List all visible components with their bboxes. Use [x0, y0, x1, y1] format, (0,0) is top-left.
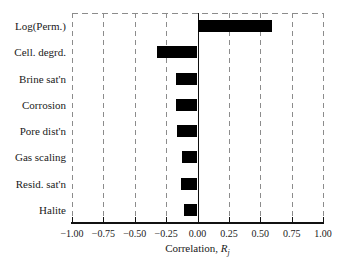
bar [182, 151, 197, 163]
zero-reference-line [198, 13, 199, 223]
gridline [103, 13, 104, 223]
gridline [166, 13, 167, 223]
gridline [323, 13, 324, 223]
x-axis-title-symbol: R [221, 242, 228, 254]
category-label: Halite [0, 197, 66, 223]
bar [157, 46, 197, 58]
category-label: Gas scaling [0, 144, 66, 170]
category-label: Corrosion [0, 92, 66, 118]
x-axis-title-text: Correlation, [165, 242, 221, 254]
x-axis-title: Correlation, Rj [72, 242, 323, 254]
gridline [72, 13, 73, 223]
category-label: Log(Perm.) [0, 13, 66, 39]
category-label: Cell. degrd. [0, 39, 66, 65]
x-axis-line [71, 222, 324, 224]
bar [184, 204, 198, 216]
category-label: Resid. sat'n [0, 171, 66, 197]
gridline [135, 13, 136, 223]
category-label: Pore dist'n [0, 118, 66, 144]
gridline [260, 13, 261, 223]
x-tick-label: 1.00 [301, 228, 345, 239]
bar [176, 73, 197, 85]
bar [181, 178, 197, 190]
bar [176, 99, 197, 111]
bar [177, 125, 197, 137]
bar [198, 20, 272, 32]
category-label: Brine sat'n [0, 66, 66, 92]
gridline [292, 13, 293, 223]
x-axis-title-subscript: j [228, 248, 230, 257]
correlation-bar-chart: Correlation, Rj −1.00−0.75−0.50−0.250.00… [0, 0, 349, 268]
gridline [229, 13, 230, 223]
